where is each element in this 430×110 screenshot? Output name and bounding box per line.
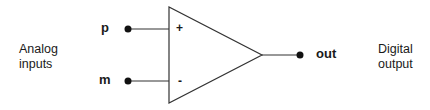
comparator-diagram: Analog inputs p m + - out Digital output: [0, 0, 430, 110]
digital-output-line-1: Digital: [378, 42, 413, 57]
input-p-label: p: [101, 20, 109, 35]
input-p-terminal: [125, 26, 132, 33]
output-terminal: [297, 52, 304, 59]
output-label: out: [316, 46, 336, 61]
input-m-label: m: [99, 72, 111, 87]
digital-output-line-2: output: [378, 57, 413, 72]
input-m-terminal: [125, 78, 132, 85]
minus-sign: -: [178, 74, 182, 88]
analog-inputs-label: Analog inputs: [19, 42, 58, 72]
comparator-graphic: [0, 0, 430, 110]
digital-output-label: Digital output: [378, 42, 413, 72]
analog-inputs-line-1: Analog: [19, 42, 58, 57]
analog-inputs-line-2: inputs: [19, 57, 58, 72]
plus-sign: +: [176, 21, 183, 35]
